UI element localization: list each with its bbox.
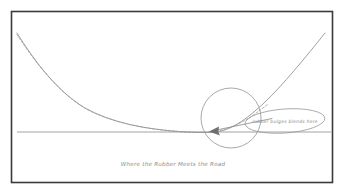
- figure-caption: Where the Rubber Meets the Road: [121, 161, 226, 167]
- figure-canvas: Where the Rubber Meets the Road rubber b…: [0, 0, 347, 196]
- callout-label: rubber bulges blends here: [252, 119, 318, 124]
- figure-frame: [12, 12, 333, 183]
- figure-container: Where the Rubber Meets the Road rubber b…: [0, 0, 347, 196]
